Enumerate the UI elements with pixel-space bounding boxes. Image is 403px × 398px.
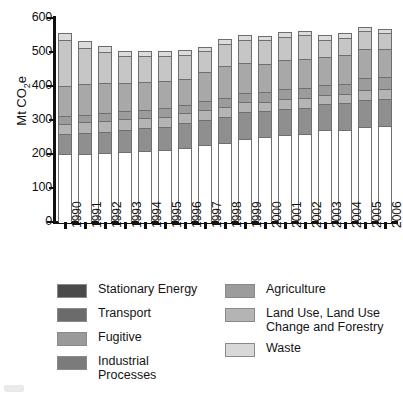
bar-segment bbox=[259, 112, 271, 138]
bar-segment bbox=[59, 117, 71, 124]
legend-swatch bbox=[57, 332, 87, 346]
bar-segment bbox=[319, 41, 331, 58]
bar-segment bbox=[139, 129, 151, 152]
x-tick-label: 1996 bbox=[190, 182, 204, 228]
y-tick-label: 100 bbox=[24, 180, 52, 194]
y-tick-mark bbox=[47, 221, 55, 223]
plot-area bbox=[55, 18, 395, 222]
bar-segment bbox=[259, 41, 271, 64]
bar-segment bbox=[139, 119, 151, 130]
bar-segment bbox=[119, 84, 131, 113]
bar-segment bbox=[159, 128, 171, 151]
bar-segment bbox=[79, 134, 91, 154]
bar-segment bbox=[139, 83, 151, 111]
bar-segment bbox=[159, 118, 171, 129]
bar-segment bbox=[59, 87, 71, 117]
bar-segment bbox=[279, 110, 291, 137]
bar-segment bbox=[199, 111, 211, 121]
x-tick-label: 2002 bbox=[310, 182, 324, 228]
bar-segment bbox=[179, 80, 191, 107]
legend-column-left: Stationary EnergyTransportFugitiveIndust… bbox=[57, 283, 207, 390]
bar-segment bbox=[219, 108, 231, 118]
x-tick-mark bbox=[324, 222, 327, 229]
bar-segment bbox=[239, 94, 251, 103]
bar-segment bbox=[239, 41, 251, 64]
x-tick-label: 1997 bbox=[210, 182, 224, 228]
bar-segment bbox=[339, 56, 351, 85]
y-axis-title: Mt CO2e bbox=[14, 56, 32, 146]
bar-segment bbox=[79, 85, 91, 116]
bar-segment bbox=[199, 73, 211, 102]
legend-item[interactable]: Waste bbox=[225, 342, 400, 358]
legend-item-label: Stationary Energy bbox=[98, 283, 197, 297]
bar-segment bbox=[259, 65, 271, 94]
bar-segment bbox=[99, 114, 111, 121]
bar-segment bbox=[79, 116, 91, 123]
bar-segment bbox=[199, 52, 211, 73]
x-tick-label: 2006 bbox=[390, 182, 403, 228]
bar-segment bbox=[239, 64, 251, 95]
bar-segment bbox=[239, 113, 251, 140]
legend-item[interactable]: Fugitive bbox=[57, 331, 207, 347]
y-axis-title-suffix: e bbox=[14, 76, 29, 83]
x-tick-mark bbox=[164, 222, 167, 229]
legend-swatch bbox=[225, 284, 255, 298]
bar-segment bbox=[159, 82, 171, 109]
bar-segment bbox=[219, 45, 231, 66]
legend-swatch bbox=[57, 284, 87, 298]
bar-segment bbox=[119, 57, 131, 84]
bar-segment bbox=[179, 124, 191, 148]
bar-segment bbox=[359, 50, 371, 79]
legend-swatch bbox=[57, 356, 87, 370]
bar-segment bbox=[319, 86, 331, 96]
bar-segment bbox=[59, 41, 71, 87]
bar-group bbox=[55, 18, 395, 222]
bar-segment bbox=[259, 93, 271, 102]
x-tick-mark bbox=[184, 222, 187, 229]
x-tick-mark bbox=[284, 222, 287, 229]
bar-segment bbox=[279, 38, 291, 61]
bar-segment bbox=[119, 120, 131, 131]
x-tick-mark bbox=[104, 222, 107, 229]
bar-segment bbox=[179, 56, 191, 80]
bar-segment bbox=[179, 106, 191, 114]
bar-segment bbox=[219, 118, 231, 144]
bar-segment bbox=[279, 100, 291, 110]
bar-segment bbox=[339, 95, 351, 105]
bar-segment bbox=[379, 90, 391, 100]
legend-item[interactable]: Agriculture bbox=[225, 283, 400, 299]
bar-segment bbox=[339, 39, 351, 56]
legend-swatch bbox=[57, 308, 87, 322]
bar-segment bbox=[359, 101, 371, 128]
bar-segment bbox=[319, 105, 331, 131]
bar-segment bbox=[379, 50, 391, 78]
bar-segment bbox=[99, 84, 111, 114]
legend-item-label: Agriculture bbox=[266, 283, 326, 297]
bar-segment bbox=[279, 61, 291, 90]
bar-segment bbox=[179, 114, 191, 124]
x-tick-label: 2004 bbox=[350, 182, 364, 228]
x-tick-label: 2005 bbox=[370, 182, 384, 228]
x-tick-label: 2003 bbox=[330, 182, 344, 228]
bar-segment bbox=[299, 60, 311, 89]
bar-segment bbox=[379, 100, 391, 127]
legend-item[interactable]: Transport bbox=[57, 307, 207, 323]
x-tick-mark bbox=[144, 222, 147, 229]
bar-segment bbox=[239, 103, 251, 113]
legend-item-label: Fugitive bbox=[98, 331, 142, 345]
bar-segment bbox=[99, 122, 111, 133]
legend-item[interactable]: Land Use, Land Use Change and Forestry bbox=[225, 307, 400, 334]
legend-item-label: Waste bbox=[266, 342, 301, 356]
x-tick-mark bbox=[344, 222, 347, 229]
bar-segment bbox=[339, 85, 351, 95]
bar-segment bbox=[299, 109, 311, 136]
legend-item[interactable]: Industrial Processes bbox=[57, 355, 207, 382]
x-tick-mark bbox=[304, 222, 307, 229]
bar-segment bbox=[159, 57, 171, 82]
x-tick-label: 1992 bbox=[110, 182, 124, 228]
x-tick-label: 1990 bbox=[70, 182, 84, 228]
x-tick-mark bbox=[84, 222, 87, 229]
x-tick-label: 2001 bbox=[290, 182, 304, 228]
bar-segment bbox=[299, 89, 311, 99]
legend-item[interactable]: Stationary Energy bbox=[57, 283, 207, 299]
